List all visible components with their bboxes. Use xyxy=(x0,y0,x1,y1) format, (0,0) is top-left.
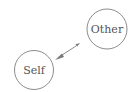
node-self: Self xyxy=(15,51,54,90)
node-other: Other xyxy=(87,9,127,49)
edge-self-other xyxy=(55,43,80,60)
self-other-diagram: Self Other xyxy=(0,0,135,92)
arrowhead-to-other-icon xyxy=(76,43,81,47)
self-label: Self xyxy=(23,64,46,77)
other-label: Other xyxy=(91,23,124,36)
